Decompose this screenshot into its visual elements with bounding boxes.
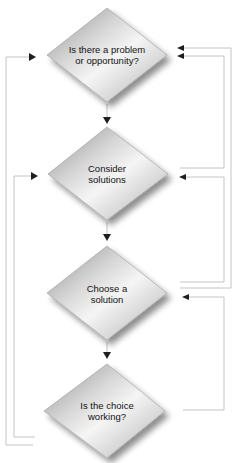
- node-label-working: Is the choice working?: [62, 400, 152, 422]
- node-label-problem: Is there a problem or opportunity?: [57, 44, 157, 66]
- flowchart-canvas: [0, 0, 237, 463]
- arrow-left-icon: [182, 294, 189, 300]
- arrow-down-icon: [103, 117, 111, 124]
- connector-working-to-problem: [6, 57, 33, 445]
- arrow-right-icon: [31, 172, 38, 180]
- arrow-left-icon: [177, 45, 184, 51]
- node-label-choose: Choose a solution: [67, 283, 147, 305]
- connector-working-to-choose: [183, 297, 224, 410]
- connector-consider-to-problem: [180, 56, 224, 168]
- arrow-left-icon: [177, 53, 184, 59]
- decision-nodes: [44, 8, 168, 458]
- arrow-right-icon: [29, 53, 36, 61]
- node-label-consider: Consider solutions: [67, 163, 147, 185]
- connector-working-to-consider: [14, 176, 35, 437]
- arrow-left-icon: [179, 174, 186, 180]
- connector-choose-to-consider: [180, 177, 224, 282]
- arrow-down-icon: [103, 234, 111, 241]
- arrow-down-icon: [103, 352, 111, 359]
